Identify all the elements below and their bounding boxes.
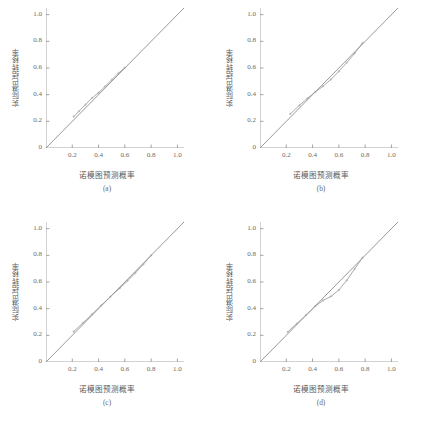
plot-svg-d xyxy=(260,222,398,362)
panel-caption-c: (c) xyxy=(0,398,214,407)
x-axis-label-c: 诺模图预测概率 xyxy=(0,383,214,394)
calibration-figure-grid: 实际淋巴结转移率 诺模图预测概率 (a) 00.20.40.60.81.00.2… xyxy=(0,0,428,428)
y-tick-0.6-a: 0.6 xyxy=(20,63,42,71)
y-tick-0.4-b: 0.4 xyxy=(234,90,256,98)
plot-svg-a xyxy=(46,8,184,148)
y-tick-origin-a: 0 xyxy=(20,143,42,151)
plot-svg-b xyxy=(260,8,398,148)
x-tick-0.2-d: 0.2 xyxy=(275,365,297,373)
panel-caption-a: (a) xyxy=(0,184,214,193)
x-axis-label-d: 诺模图预测概率 xyxy=(214,383,428,394)
y-tick-0.8-c: 0.8 xyxy=(20,250,42,258)
x-tick-0.4-a: 0.4 xyxy=(88,151,110,159)
plot-svg-c xyxy=(46,222,184,362)
x-tick-0.8-c: 0.8 xyxy=(140,365,162,373)
panel-d: 实际淋巴结转移率 诺模图预测概率 (d) 00.20.40.60.81.00.2… xyxy=(214,214,428,428)
x-tick-0.4-d: 0.4 xyxy=(302,365,324,373)
y-tick-1.0-d: 1.0 xyxy=(234,224,256,232)
y-tick-0.2-c: 0.2 xyxy=(20,330,42,338)
y-tick-0.4-d: 0.4 xyxy=(234,304,256,312)
x-tick-0.6-d: 0.6 xyxy=(328,365,350,373)
plot-area-a xyxy=(46,8,184,148)
y-tick-0.2-d: 0.2 xyxy=(234,330,256,338)
panel-a: 实际淋巴结转移率 诺模图预测概率 (a) 00.20.40.60.81.00.2… xyxy=(0,0,214,214)
y-axis-label-text-b: 实际淋巴结转移率 xyxy=(225,49,235,107)
x-axis-label-a: 诺模图预测概率 xyxy=(0,169,214,180)
y-tick-0.6-b: 0.6 xyxy=(234,63,256,71)
x-tick-0.2-b: 0.2 xyxy=(275,151,297,159)
plot-area-d xyxy=(260,222,398,362)
plot-area-b xyxy=(260,8,398,148)
y-axis-label-text-a: 实际淋巴结转移率 xyxy=(11,49,21,107)
x-tick-1.0-d: 1.0 xyxy=(380,365,402,373)
x-tick-0.6-b: 0.6 xyxy=(328,151,350,159)
panel-caption-d: (d) xyxy=(214,398,428,407)
panel-c: 实际淋巴结转移率 诺模图预测概率 (c) 00.20.40.60.81.00.2… xyxy=(0,214,214,428)
x-tick-0.4-b: 0.4 xyxy=(302,151,324,159)
x-tick-1.0-a: 1.0 xyxy=(166,151,188,159)
y-tick-0.8-a: 0.8 xyxy=(20,36,42,44)
x-tick-0.6-c: 0.6 xyxy=(114,365,136,373)
y-tick-0.8-b: 0.8 xyxy=(234,36,256,44)
x-tick-0.8-b: 0.8 xyxy=(354,151,376,159)
y-tick-0.4-c: 0.4 xyxy=(20,304,42,312)
y-tick-0.2-b: 0.2 xyxy=(234,116,256,124)
x-tick-0.4-c: 0.4 xyxy=(88,365,110,373)
y-tick-0.6-d: 0.6 xyxy=(234,277,256,285)
x-tick-0.2-a: 0.2 xyxy=(61,151,83,159)
x-axis-label-b: 诺模图预测概率 xyxy=(214,169,428,180)
x-tick-1.0-b: 1.0 xyxy=(380,151,402,159)
y-tick-0.4-a: 0.4 xyxy=(20,90,42,98)
y-tick-0.6-c: 0.6 xyxy=(20,277,42,285)
x-tick-0.8-a: 0.8 xyxy=(140,151,162,159)
y-tick-1.0-b: 1.0 xyxy=(234,10,256,18)
x-tick-1.0-c: 1.0 xyxy=(166,365,188,373)
y-tick-0.2-a: 0.2 xyxy=(20,116,42,124)
y-tick-origin-c: 0 xyxy=(20,357,42,365)
y-tick-origin-d: 0 xyxy=(234,357,256,365)
x-tick-0.8-d: 0.8 xyxy=(354,365,376,373)
y-tick-1.0-c: 1.0 xyxy=(20,224,42,232)
panel-caption-b: (b) xyxy=(214,184,428,193)
y-tick-1.0-a: 1.0 xyxy=(20,10,42,18)
y-tick-origin-b: 0 xyxy=(234,143,256,151)
plot-area-c xyxy=(46,222,184,362)
y-axis-label-text-c: 实际淋巴结转移率 xyxy=(11,263,21,321)
x-tick-0.6-a: 0.6 xyxy=(114,151,136,159)
y-tick-0.8-d: 0.8 xyxy=(234,250,256,258)
y-axis-label-text-d: 实际淋巴结转移率 xyxy=(225,263,235,321)
panel-b: 实际淋巴结转移率 诺模图预测概率 (b) 00.20.40.60.81.00.2… xyxy=(214,0,428,214)
x-tick-0.2-c: 0.2 xyxy=(61,365,83,373)
